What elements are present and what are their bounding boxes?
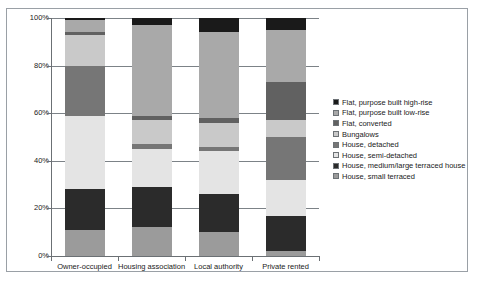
legend-item[interactable]: Flat, purpose built low-rise <box>333 108 465 119</box>
bar-segment[interactable] <box>266 30 306 82</box>
bar-segment[interactable] <box>132 187 172 227</box>
legend-swatch-icon <box>333 120 339 126</box>
bar-segment[interactable] <box>65 230 105 256</box>
bar-segment[interactable] <box>65 20 105 32</box>
bar-segment[interactable] <box>132 18 172 25</box>
legend-item-label: House, medium/large terraced house <box>342 161 465 170</box>
chart-frame: 0%20%40%60%80%100% Flat, purpose built h… <box>6 8 468 272</box>
legend-item[interactable]: House, small terraced <box>333 171 465 182</box>
legend-item[interactable]: House, semi-detached <box>333 150 465 161</box>
bar-segment[interactable] <box>65 116 105 190</box>
bar-segment[interactable] <box>266 82 306 120</box>
x-axis-category-label: Owner-occupied <box>51 262 118 271</box>
bar-segment[interactable] <box>199 123 239 147</box>
bar-segment[interactable] <box>65 66 105 116</box>
legend-item-label: Bungalows <box>342 130 379 139</box>
x-axis-category-label: Housing association <box>118 262 185 271</box>
x-axis-category-label: Private rented <box>252 262 319 271</box>
y-axis-tick <box>47 208 52 209</box>
bar-segment[interactable] <box>199 18 239 32</box>
legend-item-label: Flat, purpose built high-rise <box>342 98 432 107</box>
y-axis-tick <box>47 161 52 162</box>
bar-segment[interactable] <box>199 32 239 118</box>
y-axis-tick-label: 60% <box>11 109 49 117</box>
bar-segment[interactable] <box>132 25 172 115</box>
bar-segment[interactable] <box>132 149 172 187</box>
y-axis-tick-label: 20% <box>11 204 49 212</box>
chart-legend: Flat, purpose built high-riseFlat, purpo… <box>333 97 465 182</box>
legend-swatch-icon <box>333 99 339 105</box>
legend-item-label: House, detached <box>342 140 399 149</box>
bar-segment[interactable] <box>132 227 172 256</box>
plot-area <box>51 18 319 256</box>
bar-segment[interactable] <box>266 216 306 252</box>
y-axis-tick-label: 0% <box>11 252 49 260</box>
legend-item[interactable]: House, detached <box>333 139 465 150</box>
y-axis-tick <box>47 66 52 67</box>
y-axis-tick-label: 80% <box>11 62 49 70</box>
y-axis-tick <box>47 113 52 114</box>
legend-item-label: Flat, converted <box>342 119 392 128</box>
bar-segment[interactable] <box>266 180 306 216</box>
bar-segment[interactable] <box>266 18 306 30</box>
bar-segment[interactable] <box>199 232 239 256</box>
bar-segment[interactable] <box>266 120 306 137</box>
legend-item[interactable]: Flat, converted <box>333 118 465 129</box>
y-axis-tick-label: 100% <box>11 14 49 22</box>
bar-segment[interactable] <box>132 120 172 144</box>
x-axis-tick <box>185 256 186 261</box>
legend-item[interactable]: Bungalows <box>333 129 465 140</box>
legend-swatch-icon <box>333 131 339 137</box>
bar-segment[interactable] <box>199 151 239 194</box>
legend-swatch-icon <box>333 110 339 116</box>
legend-item-label: Flat, purpose built low-rise <box>342 108 430 117</box>
legend-item[interactable]: Flat, purpose built high-rise <box>333 97 465 108</box>
y-axis-labels: 0%20%40%60%80%100% <box>7 9 49 269</box>
y-axis-tick-label: 40% <box>11 157 49 165</box>
x-axis-tick <box>51 256 52 261</box>
x-axis-category-label: Local authority <box>185 262 252 271</box>
bar-local-authority[interactable] <box>199 18 239 256</box>
legend-swatch-icon <box>333 142 339 148</box>
bar-housing-association[interactable] <box>132 18 172 256</box>
legend-swatch-icon <box>333 163 339 169</box>
bar-owner-occupied[interactable] <box>65 18 105 256</box>
bar-segment[interactable] <box>65 35 105 66</box>
legend-swatch-icon <box>333 173 339 179</box>
x-axis-tick <box>118 256 119 261</box>
bar-segment[interactable] <box>266 137 306 180</box>
bar-segment[interactable] <box>65 189 105 229</box>
legend-swatch-icon <box>333 152 339 158</box>
bar-segment[interactable] <box>266 251 306 256</box>
x-axis-tick <box>252 256 253 261</box>
bar-private-rented[interactable] <box>266 18 306 256</box>
y-axis-tick <box>47 18 52 19</box>
legend-item[interactable]: House, medium/large terraced house <box>333 161 465 172</box>
bar-segment[interactable] <box>199 194 239 232</box>
x-axis-tick <box>319 256 320 261</box>
legend-item-label: House, small terraced <box>342 172 415 181</box>
legend-item-label: House, semi-detached <box>342 151 417 160</box>
